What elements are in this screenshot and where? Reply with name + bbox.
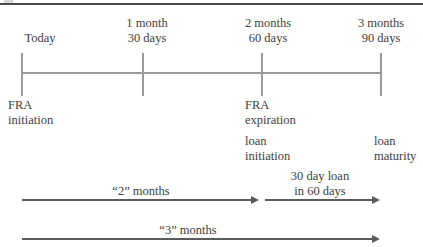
arrow-label-thirty-day-loan-line2: in 60 days [294,184,345,199]
two-months-arrow-head [251,196,259,204]
arrow-label-two-months: “2” months [112,184,169,199]
tick-label-today: Today [24,31,55,46]
fra-timeline-diagram: Today 1 month 30 days 2 months 60 days 3… [0,0,423,247]
axis-tick-3-months [380,53,382,96]
axis-tick-today [21,53,23,96]
event-label-loan-maturity-line1: loan [374,134,396,149]
thirty-day-loan-arrow-shaft [265,199,373,201]
event-label-loan-initiation-line1: loan [245,134,267,149]
tick-label-1-month-line1: 1 month [126,16,167,31]
event-label-fra-expiration-line1: FRA [245,98,269,113]
timeline-axis [22,72,382,74]
event-label-loan-maturity-line2: maturity [374,149,416,164]
top-artifact-mark [4,0,13,3]
tick-label-1-month-line2: 30 days [128,31,167,46]
tick-label-3-months-line1: 3 months [358,16,404,31]
two-months-arrow-shaft [22,199,252,201]
thirty-day-loan-arrow-head [372,196,380,204]
event-label-fra-initiation-line1: FRA [8,98,32,113]
event-label-fra-expiration-line2: expiration [245,113,296,128]
top-divider-rule [0,3,423,5]
tick-label-2-months-line1: 2 months [245,16,291,31]
event-label-loan-initiation-line2: initiation [245,149,290,164]
axis-tick-2-months [261,53,263,96]
three-months-arrow-head [372,235,380,243]
arrow-label-three-months: “3” months [159,223,216,238]
tick-label-2-months-line2: 60 days [249,31,288,46]
arrow-label-thirty-day-loan-line1: 30 day loan [291,169,349,184]
axis-tick-1-month [142,53,144,96]
three-months-arrow-shaft [22,238,373,240]
event-label-fra-initiation-line2: initiation [8,113,53,128]
tick-label-3-months-line2: 90 days [362,31,401,46]
